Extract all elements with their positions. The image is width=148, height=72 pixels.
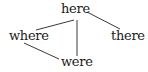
node-where: where	[9, 29, 49, 42]
edge-where-were	[24, 43, 59, 59]
word-graph-diagram: here where there were	[0, 0, 148, 72]
node-were: were	[61, 55, 93, 68]
node-here: here	[61, 2, 90, 15]
edge-here-there	[87, 12, 120, 29]
node-there: there	[111, 29, 145, 42]
